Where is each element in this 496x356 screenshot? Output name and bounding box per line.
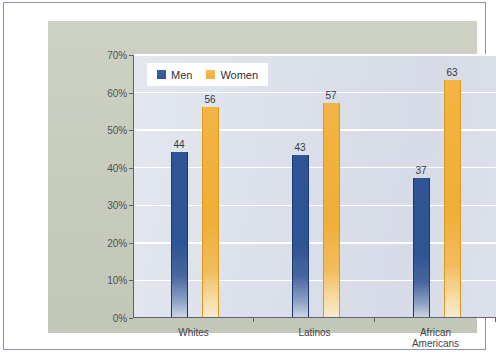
y-axis-tick-label: 20% (107, 237, 127, 248)
gridline (134, 167, 496, 169)
bar-value-label: 37 (415, 165, 426, 176)
gridline (134, 205, 496, 207)
x-axis-tick-label-line: Latinos (298, 327, 330, 338)
bar-value-label: 43 (294, 142, 305, 153)
x-axis-tick-label-line: Americans (412, 338, 459, 349)
bar-women-african-americans: 63 (444, 80, 461, 317)
gridline (134, 242, 496, 244)
legend-entry-men: Men (157, 69, 192, 81)
y-axis-tick-label: 50% (107, 125, 127, 136)
y-axis-tick-labels: 0%10%20%30%40%50%60%70% (88, 55, 127, 318)
bar-men-whites: 44 (171, 152, 188, 317)
bar-women-latinos: 57 (323, 103, 340, 317)
y-axis-tick-label: 10% (107, 275, 127, 286)
x-axis-tick-label-line: Whites (178, 327, 209, 338)
x-axis-tick-label: Latinos (298, 327, 330, 338)
bar-value-label: 63 (446, 67, 457, 78)
chart-legend: MenWomen (147, 63, 268, 86)
x-axis-tick-labels: WhitesLatinosAfricanAmericans (133, 321, 496, 356)
gridline (134, 129, 496, 131)
women-color-swatch (206, 70, 215, 79)
bar-value-label: 44 (173, 139, 184, 150)
figure-panel: Percentage 0%10%20%30%40%50%60%70% 44564… (48, 21, 477, 333)
bar-men-latinos: 43 (292, 155, 309, 317)
x-axis-tick-label: AfricanAmericans (412, 327, 459, 349)
bar-value-label: 57 (325, 90, 336, 101)
bar-value-label: 56 (204, 94, 215, 105)
bar-men-african-americans: 37 (413, 178, 430, 317)
y-axis-tick-label: 30% (107, 200, 127, 211)
plot-area: 445643573763 (133, 55, 496, 318)
x-axis-tick-label: Whites (178, 327, 209, 338)
x-axis-tick-label-line: African (412, 327, 459, 338)
legend-label: Women (220, 69, 258, 81)
figure-frame: Percentage 0%10%20%30%40%50%60%70% 44564… (3, 2, 486, 350)
men-color-swatch (157, 70, 166, 79)
gridline (134, 280, 496, 282)
y-axis-tick-label: 60% (107, 87, 127, 98)
legend-entry-women: Women (206, 69, 258, 81)
bar-women-whites: 56 (202, 107, 219, 317)
plot-inner: 445643573763 (134, 55, 496, 317)
y-axis-tick-label: 70% (107, 50, 127, 61)
legend-label: Men (171, 69, 192, 81)
gridline (134, 92, 496, 94)
y-axis-tick-label: 40% (107, 162, 127, 173)
y-axis-tick-label: 0% (113, 313, 127, 324)
gridline (134, 54, 496, 56)
